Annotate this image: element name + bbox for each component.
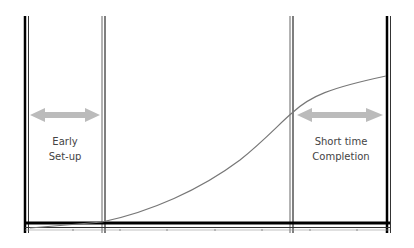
early-setup-line2: Set-up	[28, 149, 102, 164]
left-divider	[102, 16, 105, 233]
short-time-line2: Completion	[296, 149, 386, 164]
short-time-completion-label: Short time Completion	[296, 134, 386, 164]
double-arrow-icon-left	[30, 108, 100, 122]
right-frame-bar	[387, 16, 391, 233]
short-time-line1: Short time	[296, 134, 386, 149]
right-divider	[290, 16, 293, 233]
double-arrow-icon-right	[297, 108, 383, 122]
early-setup-line1: Early	[28, 134, 102, 149]
early-setup-label: Early Set-up	[28, 134, 102, 164]
left-frame-bar	[25, 16, 29, 233]
diagram-canvas	[0, 0, 414, 248]
